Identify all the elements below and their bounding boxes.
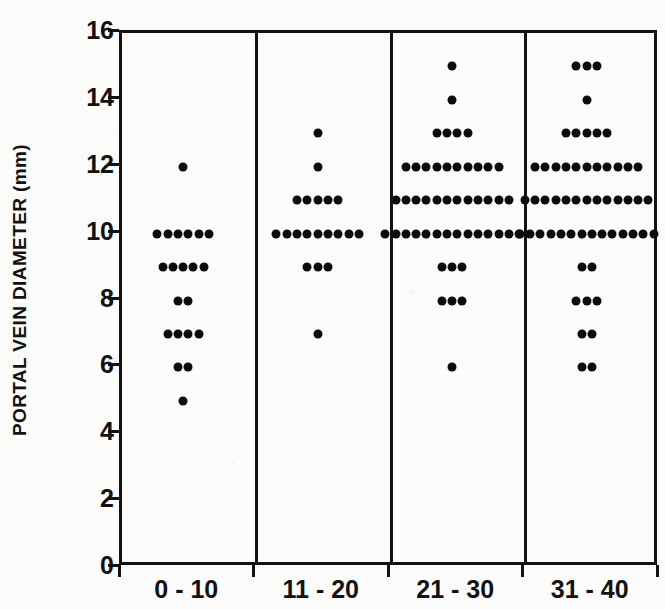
y-tick-mark-2	[108, 497, 119, 500]
data-point	[153, 229, 162, 238]
data-point	[293, 229, 302, 238]
y-tick-label-6: 6	[42, 352, 114, 377]
data-point	[603, 196, 612, 205]
data-point	[179, 396, 188, 405]
x-category-label-2: 21 - 30	[416, 575, 494, 604]
data-point	[313, 263, 322, 272]
data-point	[334, 229, 343, 238]
data-point	[174, 229, 183, 238]
data-point	[432, 196, 441, 205]
data-point	[174, 296, 183, 305]
data-point	[184, 296, 193, 305]
data-point	[473, 229, 482, 238]
data-point	[204, 229, 213, 238]
data-point	[567, 229, 576, 238]
x-category-label-3: 31 - 40	[551, 575, 629, 604]
data-point	[572, 129, 581, 138]
data-point	[448, 263, 457, 272]
data-point	[572, 296, 581, 305]
data-point	[598, 229, 607, 238]
data-point	[556, 229, 565, 238]
data-point	[592, 129, 601, 138]
data-point	[541, 162, 550, 171]
data-point	[344, 229, 353, 238]
data-point	[158, 263, 167, 272]
data-point	[381, 229, 390, 238]
y-tick-label-2: 2	[42, 486, 114, 511]
panel-divider-2	[390, 33, 393, 562]
data-point	[448, 363, 457, 372]
data-point	[443, 229, 452, 238]
data-point	[484, 196, 493, 205]
data-point	[412, 229, 421, 238]
data-point	[391, 229, 400, 238]
data-point	[313, 229, 322, 238]
data-point	[494, 162, 503, 171]
data-point	[453, 229, 462, 238]
data-point	[577, 329, 586, 338]
data-point	[437, 296, 446, 305]
data-point	[463, 162, 472, 171]
data-point	[541, 196, 550, 205]
data-point	[448, 296, 457, 305]
data-point	[515, 229, 524, 238]
data-point	[458, 296, 467, 305]
data-point	[463, 129, 472, 138]
y-tick-mark-14	[108, 96, 119, 99]
data-point	[613, 162, 622, 171]
y-tick-mark-10	[108, 230, 119, 233]
data-point	[422, 196, 431, 205]
data-point	[432, 129, 441, 138]
data-point	[163, 329, 172, 338]
data-point	[422, 162, 431, 171]
data-point	[623, 196, 632, 205]
y-axis-tick-labels: 0246810121416	[38, 0, 114, 609]
data-point	[313, 329, 322, 338]
data-point	[282, 229, 291, 238]
data-point	[577, 363, 586, 372]
data-point	[199, 263, 208, 272]
data-point	[629, 229, 638, 238]
data-point	[494, 229, 503, 238]
y-tick-label-4: 4	[42, 419, 114, 444]
data-point	[272, 229, 281, 238]
plot-area	[119, 30, 657, 565]
data-point	[179, 263, 188, 272]
data-point	[504, 196, 513, 205]
data-point	[453, 196, 462, 205]
data-point	[562, 162, 571, 171]
data-point	[531, 162, 540, 171]
data-point	[303, 263, 312, 272]
data-point	[587, 229, 596, 238]
panel-divider-1	[255, 33, 258, 562]
data-point	[494, 196, 503, 205]
data-point	[168, 263, 177, 272]
data-point	[634, 162, 643, 171]
y-tick-mark-6	[108, 363, 119, 366]
data-point	[184, 363, 193, 372]
data-point	[546, 229, 555, 238]
data-point	[448, 62, 457, 71]
data-point	[582, 62, 591, 71]
data-point	[577, 263, 586, 272]
data-point	[303, 229, 312, 238]
data-point	[484, 162, 493, 171]
data-point	[293, 196, 302, 205]
data-point	[526, 229, 535, 238]
y-tick-mark-12	[108, 163, 119, 166]
y-tick-mark-16	[108, 29, 119, 32]
data-point	[432, 162, 441, 171]
data-point	[323, 263, 332, 272]
data-point	[484, 229, 493, 238]
data-point	[313, 129, 322, 138]
data-point	[536, 229, 545, 238]
data-point	[649, 229, 658, 238]
data-point	[313, 162, 322, 171]
data-point	[592, 196, 601, 205]
data-point	[587, 363, 596, 372]
data-point	[432, 229, 441, 238]
y-tick-mark-4	[108, 430, 119, 433]
data-point	[634, 196, 643, 205]
data-point	[194, 229, 203, 238]
data-point	[401, 196, 410, 205]
